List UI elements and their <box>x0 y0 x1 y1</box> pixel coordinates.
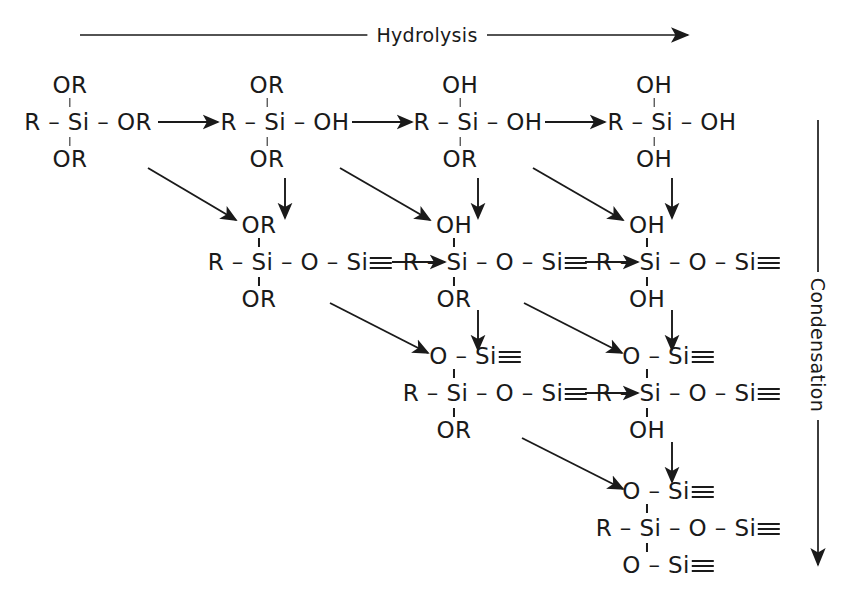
molecule-r1c4: OH R – Si – OH OH <box>607 72 736 172</box>
substituent-right: OH <box>700 109 736 135</box>
molecule-backbone: R – Si – O – Si <box>403 378 587 408</box>
triple-bond-icon <box>692 560 714 574</box>
substituent-top: OR <box>184 72 349 98</box>
substituent-top: O – Si <box>556 478 780 504</box>
substituent-top-text: O – Si <box>622 343 690 369</box>
triple-bond-icon <box>565 257 587 271</box>
bond-top <box>184 98 349 107</box>
triple-bond-icon <box>758 257 780 271</box>
substituent-bottom: OH <box>514 286 780 312</box>
bond-bottom <box>184 137 349 146</box>
bond-bottom <box>377 137 542 146</box>
triple-bond-icon <box>499 351 521 365</box>
molecule-r3c4: O – Si R – Si – O – Si OH <box>596 343 780 443</box>
molecule-r1c3: OH R – Si – OH OR <box>413 72 542 172</box>
substituent-bottom: OH <box>571 146 736 172</box>
bond-bottom <box>571 137 736 146</box>
bond-top <box>0 98 152 107</box>
hydrolysis-pathway-label: Hydrolysis <box>367 24 486 46</box>
bond-bottom <box>0 137 152 146</box>
molecule-r2c4: OH R – Si – O – Si OH <box>596 212 780 312</box>
molecule-backbone: R – Si – O – Si <box>596 378 780 408</box>
backbone-text: R – Si – <box>413 109 506 135</box>
substituent-top-text: O – Si <box>622 478 690 504</box>
triple-bond-icon <box>758 388 780 402</box>
molecule-backbone: R – Si – OH <box>607 107 736 137</box>
molecule-backbone: R – Si – OH <box>413 107 542 137</box>
bond-top <box>377 98 542 107</box>
substituent-top: OH <box>377 72 542 98</box>
molecule-backbone: R – Si – O – Si <box>403 247 587 277</box>
substituent-bottom: OR <box>0 146 152 172</box>
bond-top <box>571 98 736 107</box>
bond-bottom <box>514 543 780 552</box>
backbone-text: R – Si – O – Si <box>596 249 756 275</box>
molecule-backbone: R – Si – O – Si <box>596 247 780 277</box>
triple-bond-icon <box>692 351 714 365</box>
triple-bond-icon <box>565 388 587 402</box>
substituent-bottom: OR <box>377 146 542 172</box>
molecule-backbone: R – Si – O – Si <box>208 247 392 277</box>
substituent-right: OH <box>506 109 542 135</box>
bond-bottom <box>514 408 780 417</box>
substituent-bottom: OH <box>514 417 780 443</box>
substituent-bottom: O – Si <box>556 552 780 578</box>
bond-top <box>514 369 780 378</box>
substituent-right: OR <box>117 109 152 135</box>
substituent-right: OH <box>313 109 349 135</box>
substituent-top: OH <box>514 212 780 238</box>
backbone-text: R – Si – <box>607 109 700 135</box>
molecule-r4c4: O – Si R – Si – O – Si O – Si <box>596 478 780 578</box>
substituent-bottom-text: O – Si <box>622 552 690 578</box>
molecule-backbone: R – Si – OR <box>24 107 152 137</box>
substituent-top: OR <box>0 72 152 98</box>
bond-top <box>514 504 780 513</box>
condensation-pathway-label: Condensation <box>798 278 838 412</box>
backbone-text: R – Si – O – Si <box>208 249 368 275</box>
sol-gel-reaction-scheme: Hydrolysis Condensation OR R – Si – OR O… <box>0 0 854 594</box>
molecule-r1c1: OR R – Si – OR OR <box>24 72 152 172</box>
backbone-text: R – Si – <box>220 109 313 135</box>
backbone-text: R – Si – O – Si <box>403 249 563 275</box>
molecule-backbone: R – Si – O – Si <box>596 513 780 543</box>
triple-bond-icon <box>692 486 714 500</box>
substituent-top: O – Si <box>556 343 780 369</box>
substituent-bottom: OR <box>184 146 349 172</box>
triple-bond-icon <box>370 257 392 271</box>
triple-bond-icon <box>758 523 780 537</box>
substituent-top-text: O – Si <box>429 343 497 369</box>
molecule-r1c2: OR R – Si – OH OR <box>220 72 349 172</box>
substituent-top: O – Si <box>363 343 587 369</box>
backbone-text: R – Si – <box>24 109 117 135</box>
backbone-text: R – Si – O – Si <box>403 380 563 406</box>
bond-bottom <box>514 277 780 286</box>
molecule-backbone: R – Si – OH <box>220 107 349 137</box>
bond-top <box>514 238 780 247</box>
backbone-text: R – Si – O – Si <box>596 515 756 541</box>
substituent-top: OH <box>571 72 736 98</box>
backbone-text: R – Si – O – Si <box>596 380 756 406</box>
